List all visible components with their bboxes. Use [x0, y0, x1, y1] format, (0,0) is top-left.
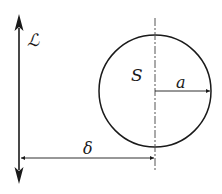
- region-s-label: S: [131, 67, 143, 84]
- distance-delta-label: δ: [83, 141, 93, 157]
- radius-a-label: a: [176, 75, 186, 91]
- line-l-label: ℒ: [27, 32, 39, 49]
